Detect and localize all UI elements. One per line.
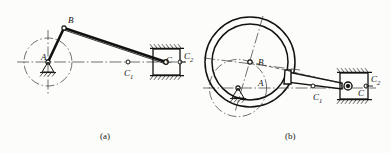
b-point-label-B: B [258, 57, 264, 67]
b-point-label-C1: C1 [313, 92, 322, 104]
a-point-label-C: C [166, 55, 172, 65]
b-point-label-A: A [258, 78, 264, 88]
b-point-label-C2: C2 [371, 74, 380, 86]
joint-B [62, 26, 66, 30]
a-point-label-C1: C1 [124, 68, 133, 80]
joint-C-slider-b [346, 84, 350, 88]
a-point-label-A: A [41, 52, 47, 62]
point-C1-b [311, 84, 315, 88]
mechanism-figure [0, 0, 391, 153]
subfigure-caption-b: (b) [285, 131, 296, 141]
strap-shoulder [284, 70, 291, 84]
point-C1 [126, 60, 130, 64]
figure-background [0, 0, 391, 153]
a-point-label-B: B [68, 15, 74, 25]
subfigure-caption-a: (a) [100, 131, 110, 141]
a-point-label-C2: C2 [184, 51, 193, 63]
b-point-label-C: C [358, 88, 364, 98]
joint-B-disc-center [248, 60, 252, 64]
